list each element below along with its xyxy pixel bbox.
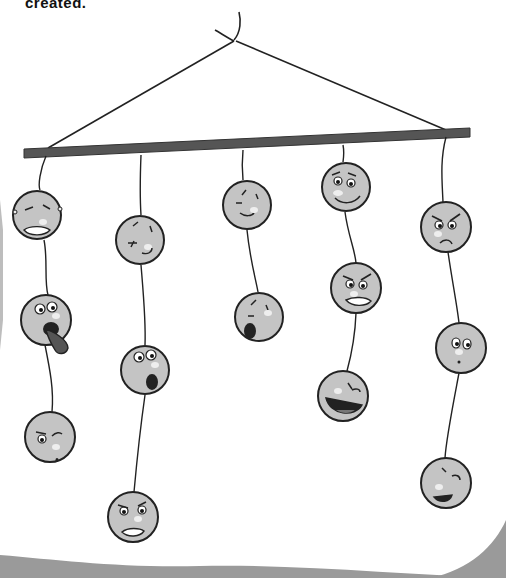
mobile-illustration	[0, 0, 506, 578]
face-furious	[331, 263, 381, 313]
mobile-rod	[24, 128, 470, 158]
face-surprised	[121, 346, 169, 394]
face-tongue-out	[21, 295, 71, 354]
page-curl	[0, 555, 506, 578]
face-angry-grimace	[108, 492, 158, 542]
face-laughing	[318, 371, 368, 421]
hanger-strings	[48, 12, 446, 148]
face-yawning	[235, 293, 283, 341]
face-sleepy-frown	[116, 216, 164, 264]
faces	[13, 163, 486, 542]
face-puzzled	[436, 323, 486, 373]
face-angry-frown	[421, 202, 471, 252]
face-playful-tongue	[421, 458, 471, 508]
face-worried-smile	[322, 163, 370, 211]
face-suspicious-winking	[25, 412, 75, 462]
face-crying-grimace	[13, 191, 62, 239]
face-content-smile	[223, 181, 271, 229]
